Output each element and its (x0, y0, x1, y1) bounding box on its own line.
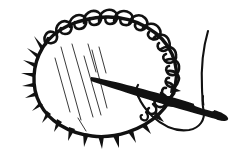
stitch-spike (23, 60, 35, 67)
stitch-spike (34, 36, 43, 50)
stitch-spike (83, 133, 89, 147)
stitch-spike (22, 83, 34, 87)
blanket-stitch-loop-tail (141, 112, 148, 120)
stitch-spike (128, 130, 136, 143)
hatch-line (78, 118, 86, 131)
hatch-line (55, 58, 70, 112)
hatch-line (88, 44, 96, 72)
stitch-spike (113, 135, 119, 148)
disc-shading-hatching (55, 44, 107, 131)
hatch-line (84, 56, 101, 115)
hatch-line (61, 47, 81, 120)
stitch-spike (98, 136, 104, 149)
hatch-line (72, 44, 93, 117)
illustration-canvas: A hand-drawn illustration of a circular … (0, 0, 243, 152)
stitch-spike (27, 48, 38, 58)
hatch-line (99, 47, 106, 73)
line-art-drawing (0, 0, 243, 152)
stitch-spike (68, 127, 75, 141)
needle-butt (210, 110, 228, 121)
stitch-spike (21, 73, 33, 77)
